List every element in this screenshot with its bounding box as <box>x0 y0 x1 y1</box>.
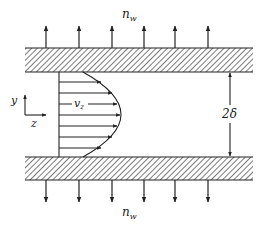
bottom-wall <box>25 157 253 180</box>
top-wall <box>25 48 253 72</box>
top-flux-arrows <box>46 26 208 48</box>
axis-y-label: y <box>10 94 18 107</box>
bottom-flux-arrows <box>46 180 208 202</box>
top-flux-label: nw <box>122 7 137 23</box>
velocity-profile <box>59 72 121 157</box>
bottom-flux-label: nw <box>122 205 137 221</box>
channel-flow-diagram: nw nw <box>0 0 269 228</box>
axis-z-label: z <box>30 117 37 130</box>
coordinate-axes <box>25 95 46 115</box>
gap-label: 2δ <box>221 107 237 121</box>
